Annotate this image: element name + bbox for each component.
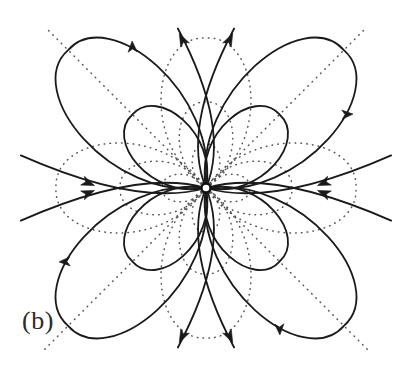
open-field-line-up-left-arrow [179, 33, 189, 47]
panel-label: (b) [22, 306, 54, 336]
open-field-line-down-left-arrow [179, 329, 189, 343]
open-field-line-up-left [178, 28, 214, 188]
open-field-line-up-right-arrow [223, 33, 233, 47]
open-field-line-down-left [178, 188, 214, 348]
figure-panel-b: (b) [0, 0, 413, 374]
centre-marker [202, 184, 211, 193]
centre-marker-layer [202, 184, 211, 193]
open-field-line-down-right-arrow [223, 329, 233, 343]
open-field-line-up-right [198, 28, 234, 188]
quadrupole-field-plot [0, 0, 413, 374]
open-field-line-down-right [198, 188, 234, 348]
